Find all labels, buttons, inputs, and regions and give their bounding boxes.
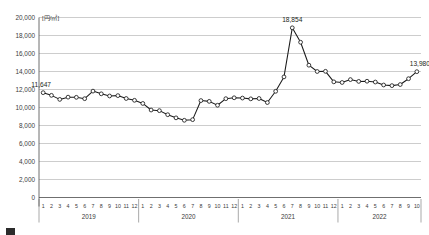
x-axis-month-label: 5 bbox=[175, 203, 178, 209]
x-axis-month-label: 4 bbox=[266, 203, 269, 209]
x-axis-month-label: 6 bbox=[183, 203, 186, 209]
x-axis-month-label: 2 bbox=[249, 203, 252, 209]
x-axis-month-label: 7 bbox=[390, 203, 393, 209]
data-point-marker bbox=[232, 96, 236, 100]
data-point-marker bbox=[66, 95, 70, 99]
data-point-marker bbox=[58, 98, 62, 102]
x-axis-month-label: 11 bbox=[323, 203, 329, 209]
y-axis-tick-label: 6,000 bbox=[19, 140, 35, 147]
data-point-marker bbox=[207, 99, 211, 103]
x-axis-month-label: 4 bbox=[67, 203, 70, 209]
x-axis-month-label: 6 bbox=[382, 203, 385, 209]
data-point-marker bbox=[382, 83, 386, 87]
x-axis-month-label: 2 bbox=[150, 203, 153, 209]
x-axis-year-label: 2021 bbox=[281, 213, 296, 220]
data-point-marker bbox=[398, 83, 402, 87]
x-axis-month-label: 3 bbox=[158, 203, 161, 209]
y-axis-tick-label: 14,000 bbox=[15, 68, 35, 75]
data-point-marker bbox=[407, 77, 411, 81]
data-point-marker bbox=[91, 89, 95, 93]
x-axis-month-label: 12 bbox=[331, 203, 337, 209]
caption-marker-icon bbox=[6, 228, 15, 235]
x-axis-month-label: 9 bbox=[307, 203, 310, 209]
data-point-marker bbox=[216, 103, 220, 107]
data-point-marker bbox=[174, 116, 178, 120]
data-point-marker bbox=[124, 97, 128, 101]
data-point-annotation: 18,854 bbox=[282, 16, 303, 23]
x-axis-year-label: 2022 bbox=[372, 213, 387, 220]
y-axis-tick-label: 18,000 bbox=[15, 32, 35, 39]
x-axis-year-label: 2020 bbox=[181, 213, 196, 220]
data-point-marker bbox=[158, 109, 162, 113]
data-point-marker bbox=[166, 113, 170, 117]
data-point-marker bbox=[274, 89, 278, 93]
data-point-marker bbox=[290, 26, 294, 30]
data-point-marker bbox=[265, 101, 269, 105]
x-axis-month-label: 2 bbox=[50, 203, 53, 209]
data-point-marker bbox=[41, 91, 45, 95]
data-point-marker bbox=[324, 69, 328, 73]
data-point-marker bbox=[199, 99, 203, 103]
data-point-marker bbox=[365, 79, 369, 83]
data-point-marker bbox=[373, 80, 377, 84]
chart-canvas: 20,00018,00016,00014,00012,00010,0008,00… bbox=[0, 0, 429, 235]
x-axis-month-label: 12 bbox=[132, 203, 138, 209]
x-axis-month-label: 4 bbox=[166, 203, 169, 209]
x-axis-month-label: 3 bbox=[258, 203, 261, 209]
x-axis-month-label: 5 bbox=[75, 203, 78, 209]
data-point-marker bbox=[257, 97, 261, 101]
x-axis-month-label: 8 bbox=[299, 203, 302, 209]
data-point-marker bbox=[249, 97, 253, 101]
x-axis-year-label: 2019 bbox=[82, 213, 97, 220]
x-axis-month-label: 4 bbox=[366, 203, 369, 209]
x-axis-month-label: 11 bbox=[223, 203, 229, 209]
data-point-marker bbox=[241, 96, 245, 100]
data-point-marker bbox=[340, 81, 344, 85]
line-chart-svg: 20,00018,00016,00014,00012,00010,0008,00… bbox=[0, 0, 429, 235]
data-point-marker bbox=[99, 92, 103, 96]
data-point-marker bbox=[191, 118, 195, 122]
y-axis-tick-label: 2,000 bbox=[19, 176, 35, 183]
data-point-marker bbox=[141, 102, 145, 106]
x-axis-month-label: 8 bbox=[100, 203, 103, 209]
data-point-annotation: 13,980 bbox=[410, 60, 429, 67]
y-axis-tick-label: 10,000 bbox=[15, 104, 35, 111]
x-axis-month-label: 5 bbox=[374, 203, 377, 209]
data-point-marker bbox=[83, 97, 87, 101]
x-axis-month-label: 7 bbox=[92, 203, 95, 209]
data-point-marker bbox=[415, 70, 419, 74]
x-axis-month-label: 8 bbox=[399, 203, 402, 209]
data-point-marker bbox=[74, 95, 78, 99]
data-point-marker bbox=[108, 94, 112, 98]
data-point-marker bbox=[390, 84, 394, 88]
data-point-marker bbox=[357, 80, 361, 84]
x-axis-month-label: 10 bbox=[314, 203, 320, 209]
x-axis-month-label: 10 bbox=[215, 203, 221, 209]
x-axis-month-label: 3 bbox=[58, 203, 61, 209]
x-axis-month-label: 1 bbox=[42, 203, 45, 209]
x-axis-month-label: 2 bbox=[349, 203, 352, 209]
x-axis-month-label: 9 bbox=[108, 203, 111, 209]
x-axis-month-label: 11 bbox=[123, 203, 129, 209]
x-axis-month-label: 1 bbox=[341, 203, 344, 209]
data-point-marker bbox=[133, 98, 137, 102]
figure-caption-strip bbox=[0, 227, 429, 235]
chart-figure: 20,00018,00016,00014,00012,00010,0008,00… bbox=[0, 0, 429, 235]
x-axis-month-label: 9 bbox=[208, 203, 211, 209]
x-axis-month-label: 1 bbox=[241, 203, 244, 209]
data-point-marker bbox=[224, 97, 228, 101]
x-axis-month-label: 7 bbox=[291, 203, 294, 209]
x-axis-month-label: 3 bbox=[357, 203, 360, 209]
data-point-marker bbox=[315, 70, 319, 74]
x-axis-month-label: 12 bbox=[231, 203, 237, 209]
data-point-marker bbox=[50, 93, 54, 97]
x-axis-month-label: 10 bbox=[115, 203, 121, 209]
y-axis-unit-label: [円/㎡] bbox=[42, 14, 59, 22]
y-axis-tick-label: 0 bbox=[31, 194, 35, 201]
x-axis-month-label: 1 bbox=[141, 203, 144, 209]
y-axis-tick-label: 4,000 bbox=[19, 158, 35, 165]
data-point-marker bbox=[349, 78, 353, 82]
x-axis-month-label: 9 bbox=[407, 203, 410, 209]
x-axis-month-label: 8 bbox=[199, 203, 202, 209]
data-point-marker bbox=[282, 75, 286, 79]
